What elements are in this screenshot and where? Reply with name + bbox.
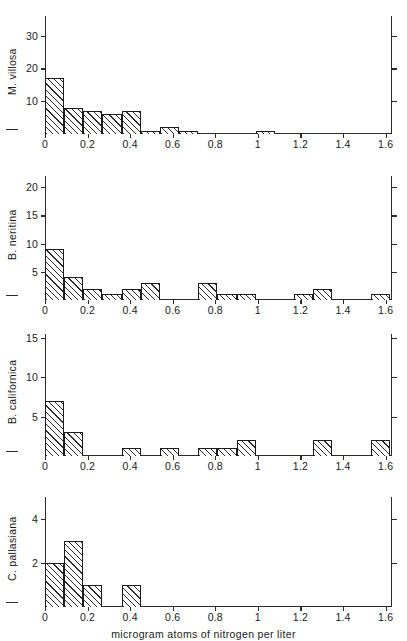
x-tick-label: 1.6 [378,461,393,472]
x-tick-label: 1 [255,461,261,472]
x-tick-label: 0.4 [123,461,138,472]
histogram-bar [45,249,64,300]
y-axis-species-label: C. pallasiana [6,497,18,603]
panel-b-neritina: B. neritina510152000.20.40.60.811.21.41.… [0,176,407,300]
y-tick-mark-right [392,215,397,216]
right-axis-line [391,176,392,300]
histogram-bar [237,440,256,456]
histogram-bar [198,283,217,300]
y-tick-mark-right [392,36,397,37]
x-tick-label: 1.6 [378,305,393,316]
histogram-bar [122,585,141,607]
plot-area: 510152000.20.40.60.811.21.41.6 [45,176,392,300]
y-tick-mark [41,215,46,216]
right-axis-line [391,497,392,607]
x-tick-label: 0.2 [80,305,95,316]
histogram-bar [294,294,313,300]
y-tick-mark-right [392,101,397,102]
histogram-bar [256,131,275,134]
histogram-bar [45,78,64,134]
x-tick-label: 0 [42,612,48,623]
x-tick-label: 0.8 [208,305,223,316]
x-tick-label: 0.8 [208,139,223,150]
x-tick-label: 0 [42,305,48,316]
histogram-bar [160,448,179,456]
histogram-bar [122,289,141,300]
y-tick-label: 10 [26,238,38,249]
y-tick-mark-right [392,187,397,188]
histogram-bar [102,114,121,134]
y-tick-label: 10 [26,96,38,107]
y-tick-mark-right [392,519,397,520]
y-tick-label: 10 [26,372,38,383]
histogram-bar [83,111,102,134]
plot-area: 10203000.20.40.60.811.21.41.6 [45,16,392,134]
y-tick-mark-right [392,417,397,418]
histogram-bar [83,289,102,300]
panel-c-pallasiana: C. pallasiana2400.20.40.60.811.21.41.6 [0,497,407,607]
y-tick-mark [41,377,46,378]
histogram-bar [371,440,390,456]
y-tick-mark-right [392,377,397,378]
histogram-bar [141,283,160,300]
plot-area: 2400.20.40.60.811.21.41.6 [45,497,392,607]
y-tick-label: 15 [26,333,38,344]
y-tick-mark [41,36,46,37]
right-axis-line [391,16,392,134]
x-tick-label: 0.2 [80,612,95,623]
y-tick-mark [41,244,46,245]
x-tick-label: 1 [255,139,261,150]
x-tick-label: 0.4 [123,139,138,150]
right-axis-line [391,334,392,456]
x-tick-label: 1.4 [335,305,350,316]
x-tick-label: 1.2 [293,461,308,472]
x-tick-label: 0.6 [165,461,180,472]
x-tick-label: 1 [255,612,261,623]
x-tick-label: 1.6 [378,139,393,150]
histogram-bar [122,448,141,456]
histogram-bar [64,432,83,456]
x-tick-label: 0.4 [123,612,138,623]
y-tick-label: 4 [32,514,38,525]
histogram-bar [179,131,198,134]
y-tick-mark-right [392,272,397,273]
histogram-bar [198,448,217,456]
x-tick-label: 0.2 [80,139,95,150]
y-tick-mark [41,338,46,339]
histogram-bar [217,448,236,456]
y-axis-species-label: B. neritina [6,176,18,296]
x-axis-title: microgram atoms of nitrogen per liter [0,628,407,640]
y-tick-label: 15 [26,210,38,221]
x-tick-label: 0.8 [208,461,223,472]
histogram-bar [64,277,83,300]
x-tick-label: 0.6 [165,612,180,623]
histogram-bar [64,108,83,134]
y-axis-species-label: M. villosa [6,16,18,130]
x-tick-label: 1.4 [335,612,350,623]
y-tick-mark [41,519,46,520]
y-tick-mark-right [392,338,397,339]
histogram-bar [83,585,102,607]
y-tick-label: 2 [32,558,38,569]
histogram-bar [45,401,64,456]
histogram-bar [141,131,160,134]
plot-area: 5101500.20.40.60.811.21.41.6 [45,334,392,456]
x-tick-label: 1.6 [378,612,393,623]
x-tick-label: 0.6 [165,305,180,316]
y-axis-species-label: B. californica [6,334,18,452]
x-tick-label: 1.2 [293,139,308,150]
histogram-bar [102,294,121,300]
x-tick-label: 1.2 [293,612,308,623]
y-tick-mark [41,187,46,188]
y-tick-label: 5 [32,267,38,278]
histogram-bar [313,289,332,300]
x-tick-label: 0 [42,139,48,150]
y-tick-mark-right [392,68,397,69]
x-tick-label: 0.8 [208,612,223,623]
histogram-bar [122,111,141,134]
panel-b-californica: B. californica5101500.20.40.60.811.21.41… [0,334,407,456]
y-tick-label: 5 [32,411,38,422]
y-tick-mark-right [392,244,397,245]
y-tick-mark-right [392,563,397,564]
histogram-bar [217,294,236,300]
